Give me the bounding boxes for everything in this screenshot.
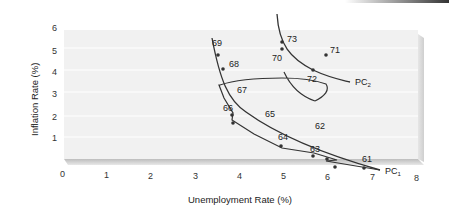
svg-text:73: 73: [287, 34, 297, 44]
svg-text:69: 69: [212, 38, 222, 48]
x-axis-title: Unemployment Rate (%): [188, 194, 292, 205]
svg-text:62: 62: [315, 121, 325, 131]
svg-text:68: 68: [229, 59, 239, 69]
svg-text:6: 6: [325, 172, 330, 182]
svg-text:2: 2: [148, 171, 153, 181]
svg-text:3: 3: [193, 171, 198, 181]
y-tick: 4: [52, 67, 57, 77]
y-tick: 3: [52, 89, 57, 99]
svg-text:1: 1: [104, 170, 109, 180]
svg-text:72: 72: [307, 74, 317, 84]
svg-text:64: 64: [278, 132, 288, 142]
svg-text:66: 66: [223, 103, 233, 113]
svg-text:70: 70: [272, 53, 282, 63]
svg-text:7: 7: [370, 172, 375, 182]
svg-text:61: 61: [362, 154, 372, 164]
y-tick: 1: [52, 133, 57, 143]
phillips-curve-chart: 6 5 4 3 2 1 0 1 2 3 4 5 6 7 8 Unemployme…: [0, 0, 449, 211]
svg-text:65: 65: [265, 109, 275, 119]
y-axis-ticks: 6 5 4 3 2 1: [52, 23, 57, 143]
svg-text:67: 67: [237, 85, 247, 95]
svg-text:8: 8: [414, 173, 419, 183]
svg-text:4: 4: [237, 171, 242, 181]
svg-text:0: 0: [60, 169, 65, 179]
plot-area: [64, 30, 424, 165]
svg-text:71: 71: [330, 45, 340, 55]
y-tick: 5: [52, 46, 57, 56]
svg-text:5: 5: [281, 171, 286, 181]
y-tick: 6: [52, 23, 57, 33]
svg-text:63: 63: [310, 144, 320, 154]
y-axis-title: Inflation Rate (%): [29, 63, 40, 136]
x-axis-ticks: 0 1 2 3 4 5 6 7 8: [60, 169, 419, 183]
y-tick: 2: [52, 112, 57, 122]
pc1-label: PC1: [385, 166, 402, 177]
